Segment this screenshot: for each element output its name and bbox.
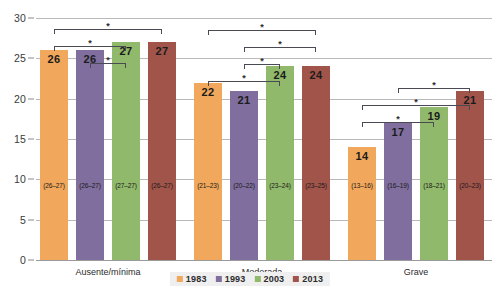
bar: 14(13–16) [348,147,376,260]
y-tick-label: 5 [20,214,26,226]
chart-legend: 1983199320032013 [170,272,330,286]
bar-confidence-interval-label: (20–23) [453,182,487,189]
y-tick-mark [28,179,34,180]
bar-confidence-interval-label: (23–25) [299,182,333,189]
legend-item[interactable]: 2013 [293,274,323,284]
bar-confidence-interval-label: (20–22) [227,182,261,189]
significance-bracket: * [244,64,280,69]
legend-swatch-icon [293,276,299,282]
significance-bracket: * [362,122,434,127]
legend-label: 2013 [302,274,323,284]
category-label: Grave [404,267,429,277]
gridline [36,18,492,19]
significance-marker: * [399,81,469,90]
legend-label: 1983 [186,274,207,284]
bar-confidence-interval-label: (21–23) [191,182,225,189]
y-tick-label: 25 [14,52,26,64]
bar-value-label: 17 [384,126,412,138]
legend-swatch-icon [255,276,261,282]
significance-marker: * [55,39,125,48]
bar: 26(26–27) [76,50,104,260]
y-tick-mark [28,98,34,99]
y-tick-label: 15 [14,133,26,145]
bar: 17(16–19) [384,123,412,260]
significance-marker: * [245,57,279,66]
significance-marker: * [209,74,279,83]
legend-swatch-icon [177,276,183,282]
significance-bracket: * [208,30,316,35]
significance-bracket: * [362,105,470,110]
bar: 22(21–23) [194,83,222,260]
bar: 21(20–23) [456,91,484,260]
y-tick-mark [28,139,34,140]
significance-marker: * [245,40,315,49]
y-tick-label: 0 [20,254,26,266]
plot-area: 26(26–27)26(26–27)27(27–27)27(26–27)22(2… [36,18,492,260]
bar-value-label: 14 [348,150,376,162]
bar: 27(26–27) [148,42,176,260]
y-tick-mark [28,18,34,19]
bar: 21(20–22) [230,91,258,260]
legend-item[interactable]: 1993 [216,274,246,284]
significance-bracket: * [244,47,316,52]
bar: 24(23–24) [266,66,294,260]
significance-marker: * [209,23,315,32]
significance-bracket: * [54,29,162,34]
y-tick-mark [28,58,34,59]
significance-bracket: * [208,81,280,86]
bar: 26(26–27) [40,50,68,260]
y-tick-label: 30 [14,12,26,24]
bar-confidence-interval-label: (27–27) [109,182,143,189]
bar-confidence-interval-label: (26–27) [145,182,179,189]
bar-value-label: 21 [230,94,258,106]
category-label: Ausente/mínima [75,267,140,277]
significance-marker: * [363,98,469,107]
bar: 27(27–27) [112,42,140,260]
bar-confidence-interval-label: (18–21) [417,182,451,189]
bar-value-label: 24 [302,69,330,81]
significance-bracket: * [54,46,126,51]
y-tick-label: 10 [14,173,26,185]
legend-item[interactable]: 2003 [255,274,285,284]
significance-marker: * [91,56,125,65]
significance-marker: * [363,115,433,124]
bar-chart: 051015202530 26(26–27)26(26–27)27(27–27)… [0,0,500,297]
legend-item[interactable]: 1983 [177,274,207,284]
significance-marker: * [55,22,161,31]
bar-value-label: 26 [40,53,68,65]
legend-swatch-icon [216,276,222,282]
y-tick-label: 20 [14,93,26,105]
bar-confidence-interval-label: (23–24) [263,182,297,189]
y-tick-mark [28,260,34,261]
bar-value-label: 22 [194,86,222,98]
y-axis: 051015202530 [0,18,34,260]
bar-value-label: 27 [148,45,176,57]
bar-confidence-interval-label: (16–19) [381,182,415,189]
bar: 19(18–21) [420,107,448,260]
bar-confidence-interval-label: (26–27) [73,182,107,189]
gridline [36,260,492,261]
legend-label: 1993 [225,274,246,284]
bar-confidence-interval-label: (13–16) [345,182,379,189]
significance-bracket: * [398,88,470,93]
legend-label: 2003 [264,274,285,284]
y-tick-mark [28,219,34,220]
significance-bracket: * [90,63,126,68]
bar-confidence-interval-label: (26–27) [37,182,71,189]
bar: 24(23–25) [302,66,330,260]
